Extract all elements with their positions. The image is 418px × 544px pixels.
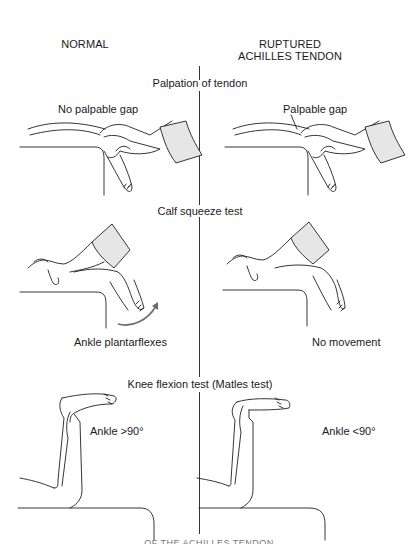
palpation-normal-illustration	[0, 115, 200, 205]
section-title-calf-squeeze: Calf squeeze test	[100, 205, 300, 217]
ruptured-column-header-line2: ACHILLES TENDON	[230, 50, 350, 62]
section-title-palpation: Palpation of tendon	[100, 77, 300, 89]
palpation-ruptured-illustration	[209, 115, 418, 205]
normal-column-header: NORMAL	[40, 38, 130, 50]
figure-caption-text: … OF THE ACHILLES TENDON …	[0, 538, 418, 544]
knee-flexion-ruptured-illustration	[209, 390, 418, 540]
ruptured-calf-squeeze-label: No movement	[312, 336, 380, 348]
knee-flexion-normal-illustration	[0, 390, 200, 540]
normal-calf-squeeze-label: Ankle plantarflexes	[74, 336, 167, 348]
ruptured-palpation-label: Palpable gap	[283, 103, 347, 115]
figure-caption-clipped: … OF THE ACHILLES TENDON …	[0, 536, 418, 544]
ruptured-knee-flexion-label: Ankle <90°	[322, 425, 376, 437]
normal-knee-flexion-label: Ankle >90°	[90, 425, 144, 437]
ruptured-column-header-line1: RUPTURED	[230, 38, 350, 50]
normal-palpation-label: No palpable gap	[58, 103, 138, 115]
plantarflex-arrow	[118, 306, 156, 325]
section-title-knee-flexion: Knee flexion test (Matles test)	[100, 378, 300, 390]
calf-squeeze-ruptured-illustration	[209, 220, 418, 330]
calf-squeeze-normal-illustration	[0, 220, 200, 330]
